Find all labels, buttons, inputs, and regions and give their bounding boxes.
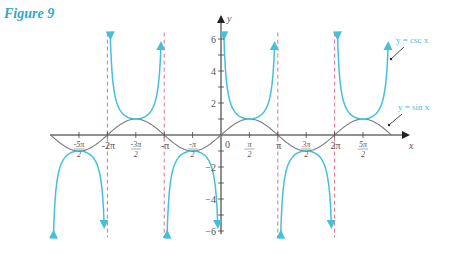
x-tick-label: 2 [304, 150, 308, 159]
x-tick-label: 2 [247, 150, 251, 159]
y-tick-label: 4 [211, 66, 216, 77]
x-tick-label: 2 [134, 150, 138, 159]
csc-sin-chart: xy -5π2-2π-3π2-π-π20π2π3π22π5π2−6−4−2246… [0, 0, 461, 253]
x-axis-label: x [408, 140, 414, 151]
x-tick-label: -3π [130, 140, 142, 149]
csc-branch [54, 151, 105, 233]
x-tick-label: -5π [74, 140, 86, 149]
x-tick-label: 3π [301, 140, 311, 149]
x-tick-label: 2π [331, 140, 341, 151]
x-tick-label: 2 [191, 150, 195, 159]
csc-label: y = csc x [396, 35, 429, 45]
csc-branch [224, 37, 275, 119]
csc-pointer [391, 47, 404, 59]
x-tick-label: 5π [359, 140, 368, 149]
x-tick-label: 2 [361, 150, 365, 159]
x-tick-label: π [247, 140, 252, 149]
y-tick-label: 2 [211, 98, 216, 109]
y-tick-label: −6 [205, 226, 216, 237]
x-tick-label: -2π [102, 140, 115, 151]
y-axis-label: y [226, 13, 232, 24]
csc-branch [110, 37, 161, 119]
y-tick-label: −4 [205, 194, 216, 205]
csc-branch [281, 151, 332, 233]
x-tick-label: -π [161, 140, 169, 151]
csc-branch [338, 37, 389, 119]
sin-pointer [389, 114, 402, 125]
x-tick-label: π [276, 140, 281, 151]
sin-label: y = sin x [398, 102, 430, 112]
y-tick-label: −2 [205, 162, 216, 173]
x-tick-label: 2 [77, 150, 81, 159]
x-tick-label: -π [189, 140, 197, 149]
axes: xy [50, 13, 414, 234]
annotations: y = csc xy = sin x [389, 35, 430, 125]
origin-label: 0 [225, 139, 230, 150]
y-tick-label: 6 [211, 34, 216, 45]
